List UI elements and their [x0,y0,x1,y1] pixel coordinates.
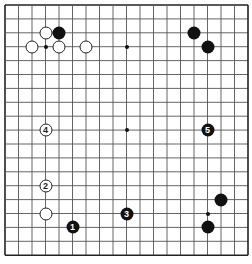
star-point [44,45,48,49]
star-point [125,128,129,132]
black-stone-move-5: 5 [201,124,214,137]
star-point [125,45,129,49]
white-stone-move-4: 4 [39,124,52,137]
white-stone [26,40,39,53]
star-point [206,212,210,216]
white-stone-move-2: 2 [39,179,52,192]
black-stone [53,26,66,39]
black-stone [188,26,201,39]
black-stone-move-1: 1 [66,221,79,234]
white-stone [80,40,93,53]
white-stone [39,207,52,220]
go-board[interactable]: 42135 [0,0,252,264]
black-stone [215,193,228,206]
white-stone [39,26,52,39]
black-stone [201,40,214,53]
black-stone-move-3: 3 [120,207,133,220]
black-stone [201,221,214,234]
white-stone [53,40,66,53]
